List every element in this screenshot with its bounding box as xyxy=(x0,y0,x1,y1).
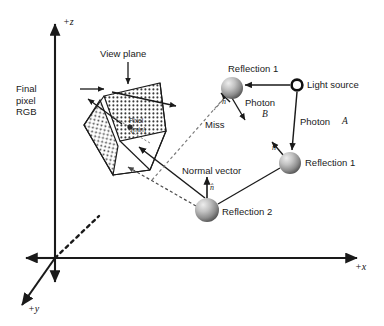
sphere-reflection-1-top xyxy=(221,77,243,99)
photon-a-label: Photon xyxy=(300,116,330,127)
sphere-reflection-2 xyxy=(195,198,219,222)
reflection-2-label: Reflection 2 xyxy=(222,206,272,217)
normal-symbol-refl1-right: n̂ xyxy=(272,144,276,152)
normal-symbol-refl2: n̂ xyxy=(210,184,214,192)
photon-b-bounce xyxy=(232,98,245,120)
miss-label: Miss xyxy=(205,119,225,130)
final-pixel-rgb-label: Final pixel RGB xyxy=(16,83,37,118)
light-source-symbol xyxy=(292,80,303,91)
pixel-label: Pixel xyxy=(129,117,143,125)
photon-b-name: B xyxy=(262,109,268,120)
photon-a-ray xyxy=(292,92,297,150)
reflection-1-top-label: Reflection 1 xyxy=(228,63,278,74)
photon-a-name: A xyxy=(342,116,348,127)
axis-y-negative-dotted xyxy=(55,216,99,258)
normal-vector-label: Normal vector xyxy=(182,165,241,176)
axis-z-label: +z xyxy=(63,16,74,27)
reflection-1-right-label: Reflection 1 xyxy=(305,157,355,168)
sphere-reflection-1-right xyxy=(279,152,301,174)
pixel-min-label: (min) xyxy=(131,126,146,134)
axis-x-label: +x xyxy=(355,261,366,272)
view-plane-shape xyxy=(84,83,166,175)
axis-y-label: +y xyxy=(28,303,39,314)
light-source-label: Light source xyxy=(307,79,359,90)
view-plane-label: View plane xyxy=(100,48,146,59)
axis-y xyxy=(22,258,55,305)
normal-symbol-refl1-top: n̂ xyxy=(222,98,226,106)
diagram-canvas: +z +x +y View plane Final pixel RGB Pixe… xyxy=(0,0,384,326)
photon-b-label: Photon xyxy=(245,97,275,108)
